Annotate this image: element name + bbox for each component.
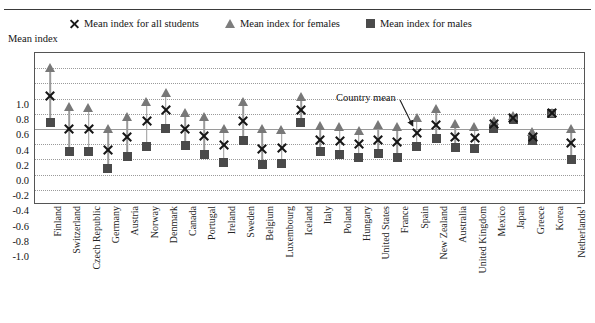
annotation-arrow-icon bbox=[0, 0, 595, 323]
chart-page: Mean index for all studentsMean index fo… bbox=[0, 0, 595, 323]
